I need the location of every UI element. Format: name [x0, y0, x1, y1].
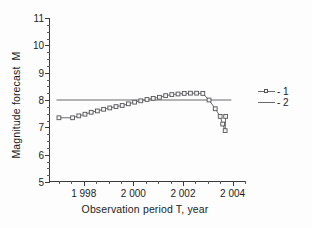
series-1-data-point [218, 115, 222, 119]
series-1-data-point [189, 91, 193, 95]
series-1-data-point [114, 105, 118, 109]
series-1-data-point [221, 122, 225, 126]
series-1-data-point [71, 116, 75, 120]
series-1-data-point [120, 104, 124, 108]
y-tick-label: 11 [34, 13, 44, 24]
series-1-data-point [139, 99, 143, 103]
y-tick-major [45, 182, 50, 183]
series-1-data-point [57, 116, 61, 120]
series-1-data-point [195, 91, 199, 95]
y-tick-label: 5 [38, 177, 44, 188]
series-1-data-point [213, 107, 217, 111]
series-1-data-point [77, 114, 81, 118]
series-1-data-point [207, 98, 211, 102]
x-tick-label: 2 004 [220, 188, 245, 199]
y-tick-label: 6 [38, 149, 44, 160]
series-1-markers [57, 91, 228, 132]
x-tick-label: 2 002 [170, 188, 195, 199]
x-axis-title: Observation period T, year [45, 203, 245, 215]
legend-line-icon [258, 97, 275, 108]
chart-screenshot: Magnitude forecast M Observation period … [0, 0, 312, 228]
x-tick-label: 2 000 [121, 188, 146, 199]
series-1-data-point [145, 98, 149, 102]
legend-item-1[interactable]: - 1 [258, 86, 308, 97]
series-1-data-point [108, 106, 112, 110]
series-1-data-point [170, 93, 174, 97]
series-1-data-point [89, 110, 93, 114]
y-axis-title: Magnitude forecast M [10, 10, 26, 200]
series-1-data-point [182, 92, 186, 96]
series-1-data-point [223, 129, 227, 133]
x-tick-minor [245, 181, 246, 184]
series-1-data-point [158, 95, 162, 99]
y-tick-label: 10 [33, 40, 44, 51]
legend-marker-line-icon [258, 86, 275, 97]
series-1-data-point [176, 92, 180, 96]
series-1-data-point [151, 96, 155, 100]
series-1-data-point [133, 100, 137, 104]
y-tick-label: 7 [38, 122, 44, 133]
legend-item-2[interactable]: - 2 [258, 97, 308, 108]
series-1-data-point [95, 109, 99, 113]
series-1-data-point [224, 115, 228, 119]
y-tick-label: 8 [38, 95, 44, 106]
x-tick-label: 1 998 [71, 188, 96, 199]
series-1-data-point [164, 94, 168, 98]
series-1-data-point [102, 107, 106, 111]
series-1-data-point [201, 92, 205, 96]
legend-label-1: - 1 [277, 86, 289, 97]
plot-area: 567891011 1 9982 0002 0022 004 [49, 18, 245, 182]
y-tick-label: 9 [38, 67, 44, 78]
series-1-data-point [126, 102, 130, 106]
legend-label-2: - 2 [277, 97, 289, 108]
legend: - 1 - 2 [258, 86, 308, 108]
data-layer [49, 18, 245, 182]
series-1-data-point [83, 112, 87, 116]
